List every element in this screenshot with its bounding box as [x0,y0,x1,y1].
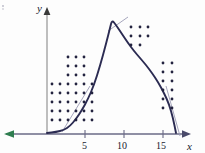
scatter-dot [83,56,86,59]
scatter-dot [130,44,133,47]
scatter-dot [91,119,94,122]
x-axis-arrowhead-right [182,130,191,138]
scatter-dot [67,83,70,86]
scatter-dot [139,44,142,47]
scatter-dot [59,92,62,95]
scatter-dot [59,119,62,122]
scatter-dot [130,26,133,29]
scatter-dot [147,26,150,29]
scatter-dot [91,83,94,86]
y-axis [44,7,51,134]
scatter-dot [162,80,165,83]
scatter-dot [51,110,54,113]
scatter-dot [171,89,174,92]
scatter-dot [59,110,62,113]
scatter-dot [83,110,86,113]
corner-mark [2,5,4,10]
scatter-dot [75,101,78,104]
scatter-dot [67,110,70,113]
scatter-dot [67,74,70,77]
scatter-dot [67,65,70,68]
x-axis [4,130,191,138]
scatter-dot [67,101,70,104]
scatter-dot [51,92,54,95]
scatter-dot [171,107,174,110]
scatter-dot [59,101,62,104]
scatter-dot [51,83,54,86]
scatter-plot-canvas: y x 5 10 15 [0,0,205,153]
scatter-dot [83,119,86,122]
scatter-dot [91,101,94,104]
x-tick-label-15: 15 [156,140,166,151]
scatter-dot [67,119,70,122]
y-axis-label: y [36,2,42,14]
scatter-dot [83,74,86,77]
scatter-dot [171,71,174,74]
scatter-dot [162,107,165,110]
scatter-dot [83,83,86,86]
scatter-dot [162,89,165,92]
scatter-dot [139,26,142,29]
scatter-dot [75,83,78,86]
scatter-dot [171,80,174,83]
scatter-dot [91,92,94,95]
scatter-dot [75,110,78,113]
scatter-dot [91,110,94,113]
x-tick-label-5: 5 [82,140,87,151]
scatter-dot [75,56,78,59]
scatter-dot [75,74,78,77]
scatter-dot [162,62,165,65]
math-figure-container: y x 5 10 15 [0,0,205,153]
density-curve [47,22,176,133]
scatter-dot [83,65,86,68]
scatter-dot [147,35,150,38]
x-axis-label: x [186,140,192,152]
scatter-dot [171,98,174,101]
scatter-dots-group [51,26,174,122]
scatter-dot [51,101,54,104]
scatter-dot [130,35,133,38]
y-axis-arrowhead [44,7,51,15]
scatter-dot [75,119,78,122]
scatter-dot [162,98,165,101]
scatter-dot [171,62,174,65]
scatter-dot [67,56,70,59]
scatter-dot [51,119,54,122]
x-axis-arrowhead-left [4,130,14,138]
scatter-dot [83,92,86,95]
scatter-dot [139,35,142,38]
scatter-dot [75,92,78,95]
tangent-right [166,86,180,136]
scatter-dot [59,83,62,86]
scatter-dot [83,101,86,104]
tangent-lines [62,17,180,136]
x-tick-label-10: 10 [117,140,127,151]
scatter-dot [162,71,165,74]
scatter-dot [75,65,78,68]
scatter-dot [67,92,70,95]
